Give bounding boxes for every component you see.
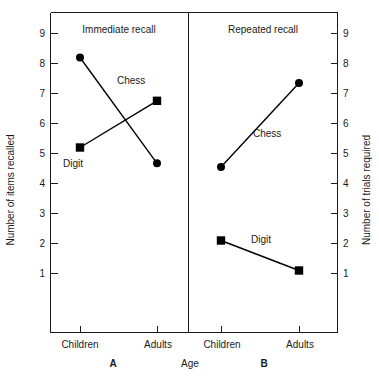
right-axis-tick-labels: 9 8 7 6 5 4 3 2 1 — [343, 28, 349, 279]
left-tick-label-1: 1 — [39, 268, 45, 279]
panel-b-digit-label: Digit — [251, 234, 271, 245]
right-tick-label-2: 2 — [343, 238, 349, 249]
panel-a-chess-point-children — [76, 54, 84, 62]
panel-a-chess-point-adults — [153, 159, 161, 167]
x-label-a-children: Children — [61, 339, 98, 350]
panel-a-title: Immediate recall — [82, 24, 155, 35]
left-tick-label-8: 8 — [39, 58, 45, 69]
right-tick-label-9: 9 — [343, 28, 349, 39]
left-axis-ticks — [51, 34, 58, 274]
panel-b-letter: B — [260, 358, 267, 369]
panel-b-chess-point-adults — [295, 79, 303, 87]
panel-b-series-chess — [217, 79, 303, 171]
panel-a-series-chess — [76, 54, 161, 168]
left-tick-label-3: 3 — [39, 208, 45, 219]
panel-a-digit-label: Digit — [63, 158, 83, 169]
right-tick-label-1: 1 — [343, 268, 349, 279]
x-label-b-adults: Adults — [286, 339, 314, 350]
x-label-a-adults: Adults — [144, 339, 172, 350]
left-tick-label-4: 4 — [39, 178, 45, 189]
chart-figure: 9 8 7 6 5 4 3 2 1 9 8 7 6 5 — [0, 0, 379, 380]
right-tick-label-3: 3 — [343, 208, 349, 219]
right-axis-ticks — [331, 34, 338, 274]
right-y-axis-title: Number of trials required — [361, 135, 372, 245]
x-axis-category-labels: Children Adults Children Adults — [61, 339, 314, 350]
panel-a-chess-line — [80, 58, 157, 164]
left-tick-label-6: 6 — [39, 118, 45, 129]
panel-b-digit-line — [221, 241, 299, 271]
chart-canvas: 9 8 7 6 5 4 3 2 1 9 8 7 6 5 — [0, 0, 379, 380]
x-label-b-children: Children — [203, 339, 240, 350]
panel-b-digit-point-adults — [295, 266, 303, 274]
panel-b-digit-point-children — [217, 236, 225, 244]
right-tick-label-8: 8 — [343, 58, 349, 69]
panel-b-title: Repeated recall — [228, 24, 298, 35]
panel-a-letter: A — [109, 358, 116, 369]
right-tick-label-5: 5 — [343, 148, 349, 159]
left-axis-tick-labels: 9 8 7 6 5 4 3 2 1 — [39, 28, 45, 279]
right-tick-label-7: 7 — [343, 88, 349, 99]
plot-frame — [51, 13, 338, 333]
panel-a-digit-point-children — [76, 143, 84, 151]
panel-b-chess-line — [221, 83, 299, 167]
left-y-axis-title: Number of items recalled — [5, 134, 16, 245]
x-axis-title: Age — [181, 358, 199, 369]
panel-a-digit-point-adults — [153, 97, 161, 105]
panel-a-chess-label: Chess — [117, 75, 145, 86]
panel-b-chess-point-children — [217, 163, 225, 171]
panel-a-digit-line — [80, 101, 157, 148]
x-axis-ticks — [81, 326, 300, 333]
left-tick-label-2: 2 — [39, 238, 45, 249]
panel-a-series-digit — [76, 97, 161, 152]
left-tick-label-7: 7 — [39, 88, 45, 99]
left-tick-label-9: 9 — [39, 28, 45, 39]
left-tick-label-5: 5 — [39, 148, 45, 159]
right-tick-label-6: 6 — [343, 118, 349, 129]
panel-b-chess-label: Chess — [253, 128, 281, 139]
right-tick-label-4: 4 — [343, 178, 349, 189]
